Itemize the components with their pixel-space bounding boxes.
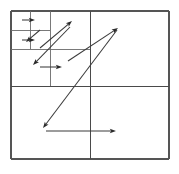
quadtree-diagram-canvas [0,0,179,174]
vector-block-a2-shaft [30,30,40,39]
quadtree-grid-lines [11,11,169,159]
quadtree-figure: Quadtree motion vector field [0,0,179,174]
vector-block-b-shaft [40,24,68,48]
vector-block-c-shaft [36,27,70,62]
vector-block-f-shaft [46,30,117,124]
figure-caption: Quadtree motion vector field [0,164,179,174]
vector-block-e-shaft [68,31,114,61]
motion-vector-arrows [22,18,118,134]
vector-block-f-head [43,122,49,128]
